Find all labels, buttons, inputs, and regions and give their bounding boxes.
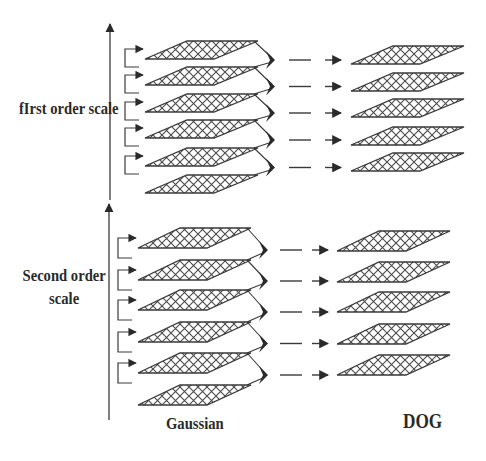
merge-arrowhead	[266, 51, 275, 69]
dog-column-label: DOG	[403, 410, 442, 433]
merge-arrowhead	[259, 366, 268, 384]
merge-arrowhead	[266, 78, 275, 96]
dog-layer	[351, 127, 464, 145]
merge-arrowhead	[266, 159, 275, 177]
first-order-group	[110, 24, 464, 200]
merge-arrowhead	[266, 131, 275, 149]
dog-layer	[337, 231, 450, 251]
bracket-arrow	[125, 156, 143, 174]
merge-arrowhead	[266, 104, 275, 122]
merge-arrowhead	[259, 272, 268, 290]
gaussian-layer	[138, 322, 251, 342]
merge-arrowhead	[259, 241, 268, 259]
diagram-canvas	[0, 0, 486, 461]
gaussian-layer	[138, 353, 251, 373]
gaussian-layer	[145, 120, 258, 138]
dog-layer	[351, 99, 464, 117]
bracket-arrow	[125, 128, 143, 146]
second-order-scale-label: Second order scale	[22, 264, 106, 310]
merge-arrowhead	[259, 303, 268, 321]
second-order-label-line-1: Second order	[22, 264, 106, 287]
gaussian-layer	[145, 175, 258, 193]
gaussian-layer	[138, 385, 251, 405]
bracket-arrow	[118, 238, 136, 258]
gaussian-layer	[145, 41, 258, 59]
gaussian-layer	[145, 94, 258, 112]
gaussian-layer	[138, 290, 251, 310]
bracket-arrow	[125, 102, 143, 120]
bracket-arrow	[118, 332, 136, 352]
dog-layer	[351, 153, 464, 171]
dog-layer	[351, 46, 464, 64]
dog-layer	[337, 355, 450, 375]
dog-layer	[337, 324, 450, 344]
dog-layer	[337, 292, 450, 312]
bracket-arrow	[125, 49, 143, 67]
dog-layer	[351, 73, 464, 91]
first-order-scale-label: fIrst order scale	[19, 99, 119, 119]
bracket-arrow	[125, 75, 143, 93]
gaussian-column-label: Gaussian	[166, 414, 224, 434]
bracket-arrow	[118, 270, 136, 290]
gaussian-layer	[145, 67, 258, 85]
second-order-label-line-2: scale	[22, 287, 106, 310]
dog-layer	[337, 262, 450, 282]
bracket-arrow	[118, 363, 136, 383]
gaussian-layer	[138, 228, 251, 248]
gaussian-layer	[145, 148, 258, 166]
merge-arrowhead	[259, 335, 268, 353]
second-order-group	[109, 204, 450, 420]
bracket-arrow	[118, 300, 136, 320]
gaussian-layer	[138, 260, 251, 280]
